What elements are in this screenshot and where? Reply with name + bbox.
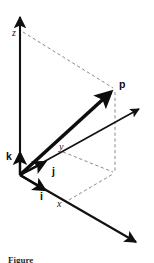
x-axis-label: x [56,198,62,209]
z-axis-label: z [11,27,16,38]
vector-p-label: p [119,78,125,90]
vector-diagram: z y x p k j i [0,0,154,263]
vector-k-label: k [6,150,12,162]
figure-caption-partial: Figure [8,255,126,263]
vector-i-label: i [40,190,43,202]
vector-j-label: j [51,165,55,177]
canvas-background [0,0,154,263]
y-axis-label: y [58,141,64,152]
figure-container: z y x p k j i Figure [0,0,154,263]
